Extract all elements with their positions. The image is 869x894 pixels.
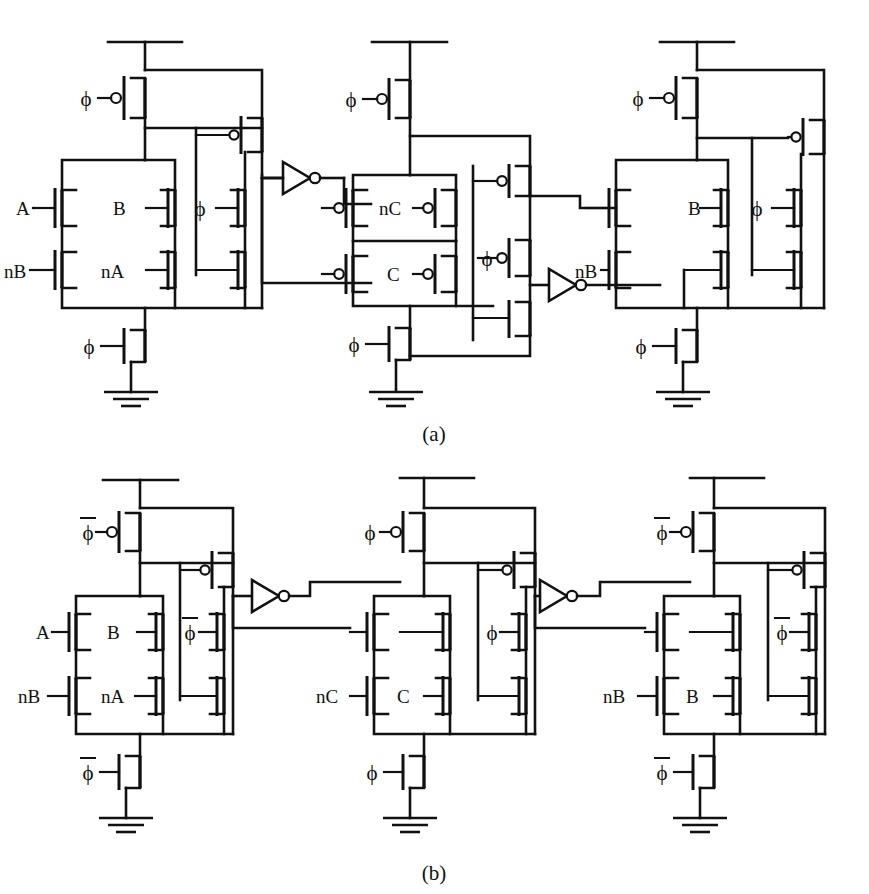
label-b-C: C [397, 686, 410, 707]
pmos-nC-left [322, 188, 367, 228]
nmos-b3-in-top-right [690, 612, 740, 652]
nmos-A [34, 188, 76, 228]
foot-nmos-b1 [100, 754, 140, 790]
a-stage-1 [30, 42, 283, 406]
precharge-pmos-b2 [380, 511, 424, 553]
nmos-phi-keeper-a1 [216, 188, 245, 228]
b-inv-2 [535, 580, 690, 628]
label-b-nB: nB [18, 686, 40, 707]
nmos-B-b1 [137, 612, 163, 652]
label-a-clk-6: ϕ [635, 335, 646, 359]
foot-nmos-a1 [101, 328, 145, 364]
nmos-B [146, 188, 175, 228]
figure-root: A B nB nA ϕ nC C ϕ B nB ϕ ϕ ϕ ϕ ϕ ϕ ϕ (a… [0, 0, 869, 894]
nmos-phi-keeper-b3 [790, 612, 816, 652]
label-b-nB3: nB [603, 686, 625, 707]
foot-nmos-a3 [653, 328, 697, 364]
label-b-nC: nC [316, 686, 338, 707]
label-b-clk-2: ϕ [80, 758, 96, 785]
b-stage-1 [48, 480, 252, 832]
label-a-C: C [387, 264, 400, 285]
nmos-B-a3 [700, 188, 728, 228]
label-a-B3: B [688, 198, 701, 219]
pmos-keeper-a2 [473, 164, 530, 198]
nmos-keeper-lower-b3 [768, 676, 816, 716]
pun-top-net [62, 160, 145, 190]
label-a-B: B [113, 198, 126, 219]
nmos-b2-in-top-right [400, 612, 450, 652]
label-a-clk-5: ϕ [632, 87, 643, 111]
nmos-B-b3 [714, 676, 740, 716]
label-a-clk-3: ϕ [345, 88, 356, 112]
label-a-nB3: nB [575, 261, 597, 282]
b1-inv-lower-tap [233, 596, 350, 628]
precharge-pmos-a3 [650, 76, 697, 120]
svg-text:ϕ: ϕ [656, 521, 667, 545]
nmos-b2-in-top-left [350, 612, 388, 652]
svg-text:ϕ: ϕ [82, 761, 93, 785]
a-stage-3 [586, 42, 824, 406]
label-b-clk-6: ϕ [654, 758, 670, 785]
label-b-B3: B [686, 686, 699, 707]
nmos-nB-b1 [48, 676, 90, 716]
foot-nmos-b3 [674, 754, 714, 790]
precharge-pmos-a1 [98, 76, 145, 120]
nmos-A-b1 [52, 612, 90, 652]
caption-b: (b) [422, 861, 447, 885]
label-a-nC: nC [379, 198, 401, 219]
a2-inv-upper-tap [530, 196, 616, 208]
label-a-keeper-phi-2: ϕ [481, 247, 492, 271]
svg-text:ϕ: ϕ [82, 521, 93, 545]
foot-nmos-b2 [384, 754, 424, 790]
svg-text:ϕ: ϕ [776, 621, 787, 645]
ground-symbol-a2 [369, 392, 423, 406]
nmos-keeper-lower-a1 [196, 250, 245, 290]
precharge-top-net [145, 70, 262, 118]
nmos-phi-keeper-b2 [500, 612, 526, 652]
label-b-clk-4: ϕ [366, 761, 377, 785]
label-a-keeper-phi-1: ϕ [194, 197, 205, 221]
panel-b: A B nB nA ϕ nC C ϕ nB B ϕ ϕ ϕ ϕ ϕ ϕ [18, 478, 825, 885]
keeper-pmos-a3 [788, 118, 824, 156]
b-stage-2 [350, 478, 540, 832]
label-b-keeper-phibar-1: ϕ [182, 618, 198, 645]
nmos-nB-b3 [638, 676, 678, 716]
label-b-clk-3: ϕ [364, 521, 375, 545]
nmos-a3-lower-right [684, 250, 728, 290]
nmos-a3-in-top [586, 188, 630, 228]
pmos-C-left [322, 254, 367, 294]
caption-a: (a) [422, 422, 445, 446]
ground-symbol-b1 [99, 818, 153, 832]
ground-symbol-b2 [383, 818, 437, 832]
nmos-nC-b2 [350, 676, 388, 716]
foot-nmos-a2 [366, 326, 410, 362]
pdn-bottom-net [62, 288, 262, 308]
a-inv-2 [530, 196, 660, 301]
nmos-phi-keeper-a3 [772, 188, 801, 228]
pmos-C-right [413, 254, 456, 294]
nmos-keeper-lower-a3 [752, 250, 801, 290]
nmos-phi-keeper-b1 [199, 612, 224, 652]
svg-text:ϕ: ϕ [184, 621, 195, 645]
ground-symbol-a3 [656, 392, 710, 406]
label-b-keeper-phi-2: ϕ [486, 621, 497, 645]
label-a-keeper-phi-3: ϕ [751, 197, 762, 221]
precharge-pmos-b1 [96, 511, 140, 553]
panel-a: A B nB nA ϕ nC C ϕ B nB ϕ ϕ ϕ ϕ ϕ ϕ ϕ (a… [4, 42, 824, 446]
label-a-nA: nA [101, 261, 125, 282]
nmos-nA [146, 250, 175, 290]
nmos-nB [30, 250, 76, 290]
ground-symbol-b3 [673, 818, 727, 832]
label-b-keeper-phibar-3: ϕ [774, 618, 790, 645]
label-b-nA: nA [101, 686, 125, 707]
nmos-keeper-lower-b2 [478, 676, 526, 716]
circuit-schematic: A B nB nA ϕ nC C ϕ B nB ϕ ϕ ϕ ϕ ϕ ϕ ϕ (a… [0, 0, 869, 894]
precharge-pmos-a2 [363, 78, 410, 120]
label-a-clk-4: ϕ [348, 333, 359, 357]
svg-text:ϕ: ϕ [656, 761, 667, 785]
pmos-nC-right [413, 188, 456, 228]
keeper-pmos-b1 [180, 551, 233, 589]
label-a-A: A [16, 198, 30, 219]
label-a-clk-1: ϕ [80, 87, 91, 111]
nmos-C-b2 [424, 676, 450, 716]
